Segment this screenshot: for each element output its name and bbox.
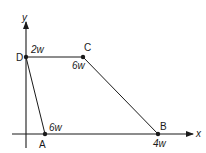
point-C-load: 6w: [72, 60, 86, 71]
point-C: [81, 55, 85, 59]
point-B-label: B: [160, 121, 167, 132]
point-D: [24, 55, 28, 59]
edge-A-D: [26, 57, 45, 134]
edge-C-B: [83, 57, 158, 134]
point-A: [43, 132, 47, 136]
x-axis-label: x: [195, 128, 202, 139]
point-A-label: A: [39, 139, 46, 150]
point-A-load: 6w: [49, 122, 63, 133]
point-D-load: 2w: [30, 44, 45, 55]
point-B: [156, 132, 160, 136]
point-C-label: C: [84, 42, 91, 53]
point-D-label: D: [16, 52, 23, 63]
y-axis-label: y: [21, 12, 28, 23]
force-diagram: y x D 2w C 6w A 6w B 4w: [0, 0, 206, 153]
point-B-load: 4w: [153, 138, 167, 149]
